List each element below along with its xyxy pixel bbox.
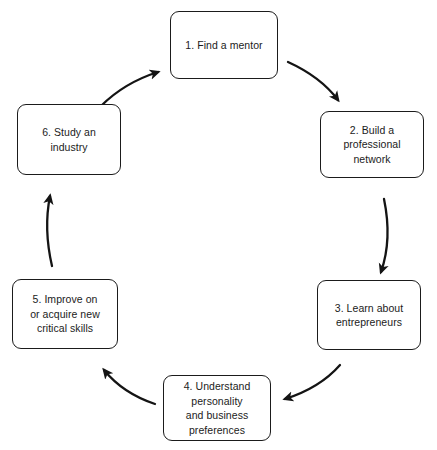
arrow-4-to-5 [104,370,155,404]
arrow-3-to-4 [285,365,340,399]
cycle-diagram: 1. Find a mentor 2. Build a professional… [0,0,437,450]
arrow-2-to-3 [381,199,388,272]
process-step-1: 1. Find a mentor [170,11,278,79]
process-step-6: 6. Study an industry [17,104,121,175]
arrow-6-to-1 [101,72,158,106]
process-step-3: 3. Learn about entrepreneurs [317,280,421,350]
arrow-5-to-6 [47,196,52,266]
process-step-4: 4. Understand personality and business p… [163,375,271,441]
arrow-1-to-2 [288,62,338,100]
process-step-5: 5. Improve on or acquire new critical sk… [12,279,118,349]
process-step-2: 2. Build a professional network [320,111,424,178]
